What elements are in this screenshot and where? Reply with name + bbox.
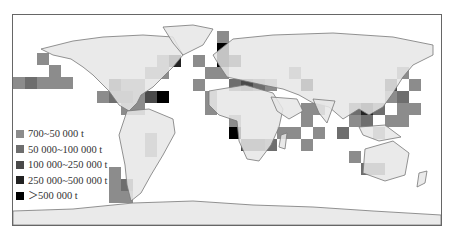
catch-cell: [205, 67, 217, 79]
catch-cell: [313, 127, 325, 139]
southeast-asia-islands: [359, 125, 401, 141]
catch-cell: [61, 77, 73, 89]
catch-cell: [37, 77, 49, 89]
catch-cell: [361, 115, 373, 127]
legend-item: 100 000~250 000 t: [16, 157, 107, 173]
catch-cell: [301, 115, 313, 127]
new-zealand: [417, 171, 427, 187]
catch-cell: [337, 127, 349, 139]
catch-cell: [13, 77, 25, 89]
catch-cell: [49, 77, 61, 89]
legend-item: 250 000~500 000 t: [16, 173, 107, 189]
catch-cell: [217, 31, 229, 43]
swatch-icon: [16, 161, 24, 169]
swatch-icon: [16, 192, 24, 200]
catch-cell: [289, 127, 301, 139]
catch-cell: [193, 79, 205, 91]
catch-cell: [385, 115, 397, 127]
catch-cell: [109, 167, 121, 179]
swatch-icon: [16, 145, 24, 153]
legend: 700~50 000 t 50 000~100 000 t 100 000~25…: [16, 126, 107, 204]
catch-cell: [37, 53, 49, 65]
legend-label: 100 000~250 000 t: [28, 157, 107, 173]
antarctica: [13, 201, 441, 225]
legend-label: ＞500 000 t: [28, 188, 78, 204]
catch-cell: [109, 179, 121, 191]
catch-cell: [301, 139, 313, 151]
catch-cell: [193, 55, 205, 67]
legend-label: 700~50 000 t: [28, 126, 84, 142]
catch-cell: [409, 79, 421, 91]
legend-item: 50 000~100 000 t: [16, 142, 107, 158]
legend-label: 250 000~500 000 t: [28, 173, 107, 189]
south-america: [119, 109, 175, 201]
swatch-icon: [16, 176, 24, 184]
legend-label: 50 000~100 000 t: [28, 142, 102, 158]
catch-cell: [397, 103, 409, 115]
catch-cell: [25, 77, 37, 89]
catch-cell: [109, 191, 121, 203]
catch-cell: [397, 115, 409, 127]
catch-cell: [349, 151, 361, 163]
swatch-icon: [16, 130, 24, 138]
catch-cell: [97, 91, 109, 103]
australia: [363, 141, 409, 181]
legend-item: 700~50 000 t: [16, 126, 107, 142]
legend-item: ＞500 000 t: [16, 188, 107, 204]
catch-cell: [157, 91, 169, 103]
catch-cell: [349, 115, 361, 127]
catch-cell: [397, 91, 409, 103]
catch-cell: [49, 65, 61, 77]
catch-cell: [301, 103, 313, 115]
catch-cell: [145, 91, 157, 103]
catch-cell: [409, 103, 421, 115]
